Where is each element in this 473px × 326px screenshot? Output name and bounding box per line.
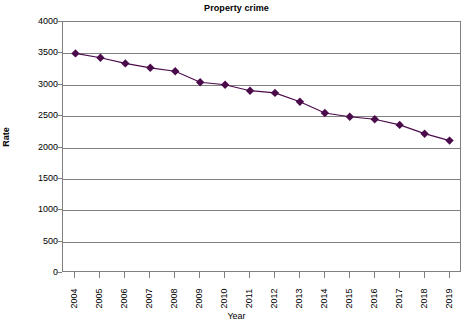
data-point-2017	[395, 121, 403, 129]
y-tick-label-500: 500	[4, 236, 58, 245]
chart-title: Property crime	[0, 3, 473, 13]
series-markers	[71, 49, 453, 145]
y-tick-label-0: 0	[4, 268, 58, 277]
series-line-property-crime	[63, 22, 462, 273]
data-point-2011	[246, 87, 254, 95]
chart-screenshot: Property crime Rate 05001000150020002500…	[0, 0, 473, 326]
y-tick-label-2000: 2000	[4, 142, 58, 151]
y-tick-label-3500: 3500	[4, 48, 58, 57]
data-point-2013	[296, 97, 304, 105]
data-point-2007	[146, 64, 154, 72]
data-point-2010	[221, 81, 229, 89]
data-point-2006	[121, 59, 129, 67]
x-axis-tick-labels: 2004200520062007200820092010201120122013…	[62, 278, 461, 310]
series-polyline	[75, 53, 449, 140]
y-tick-label-2500: 2500	[4, 111, 58, 120]
data-point-2008	[171, 67, 179, 75]
data-point-2014	[321, 109, 329, 117]
data-point-2018	[420, 129, 428, 137]
data-point-2012	[271, 89, 279, 97]
y-tick-label-4000: 4000	[4, 17, 58, 26]
y-tick-label-1000: 1000	[4, 205, 58, 214]
data-point-2015	[346, 113, 354, 121]
data-point-2016	[371, 115, 379, 123]
plot-area	[62, 21, 461, 272]
data-point-2004	[71, 49, 79, 57]
data-point-2005	[96, 54, 104, 62]
y-tick-label-1500: 1500	[4, 173, 58, 182]
x-axis-title: Year	[0, 311, 473, 321]
data-point-2009	[196, 78, 204, 86]
y-tick-label-3000: 3000	[4, 79, 58, 88]
data-point-2019	[445, 136, 453, 144]
y-axis-tick-labels: 05001000150020002500300035004000	[0, 21, 58, 272]
